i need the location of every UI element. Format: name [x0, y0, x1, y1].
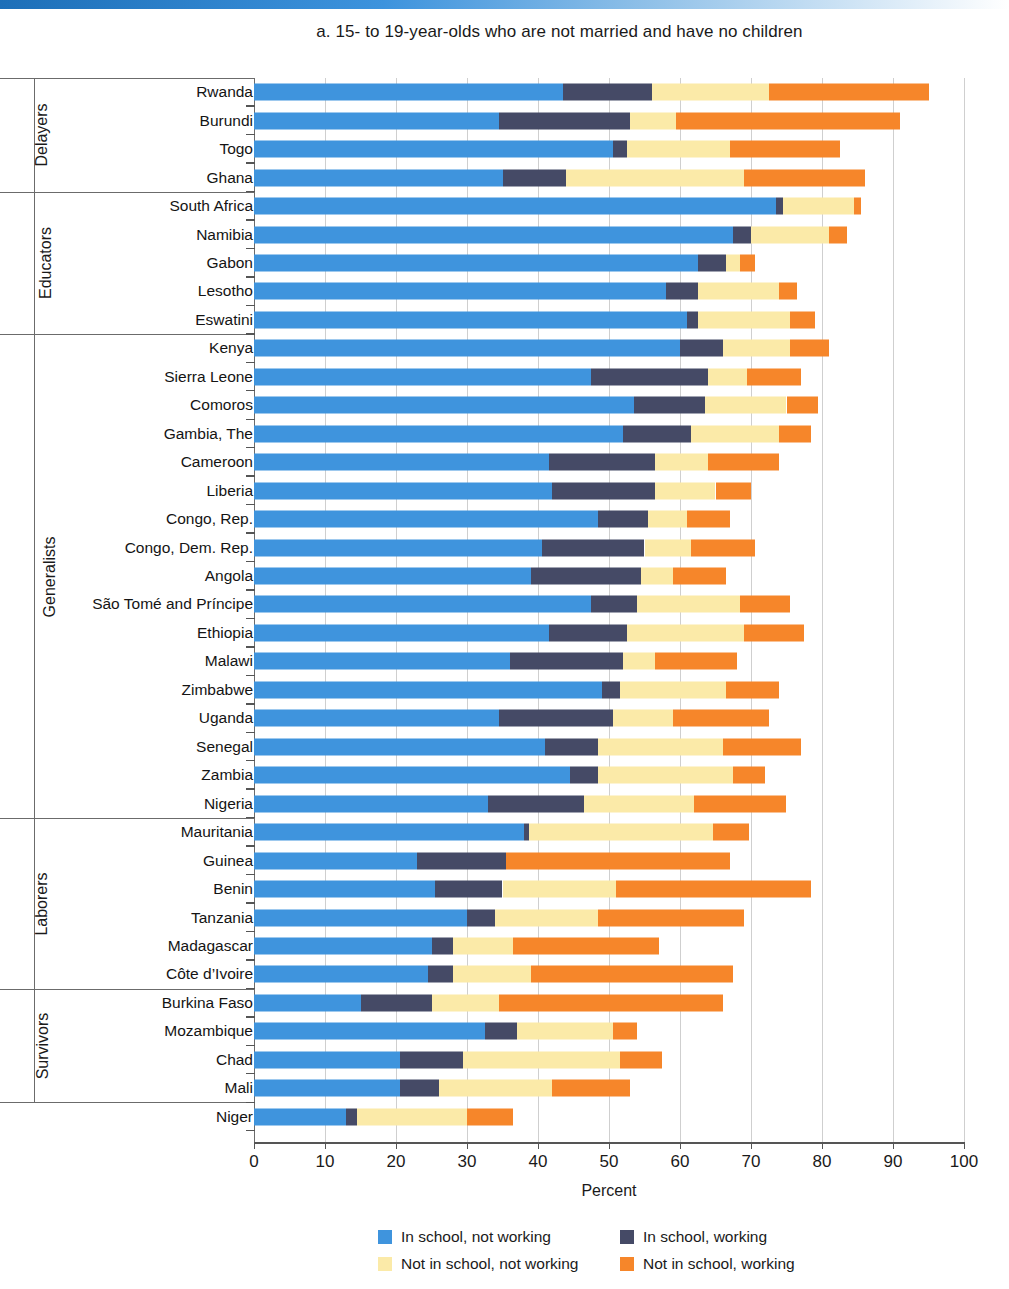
chart-row: Zambia — [0, 761, 1009, 789]
bar-segment-2 — [776, 198, 783, 215]
chart-row: Nigeria — [0, 790, 1009, 818]
chart-row: Côte d’Ivoire — [0, 960, 1009, 988]
bar-segment-1 — [254, 539, 542, 556]
bar-segment-4 — [716, 482, 752, 499]
country-label: Rwanda — [196, 83, 253, 101]
axis-tick-10 — [325, 1142, 326, 1149]
country-label: Comoros — [190, 396, 253, 414]
bar-segment-1 — [254, 994, 361, 1011]
stacked-bar — [254, 84, 964, 101]
axis-tick-label-90: 90 — [884, 1152, 903, 1172]
bar-segment-1 — [254, 226, 733, 243]
country-label: Namibia — [196, 226, 253, 244]
chart-row: Ghana — [0, 163, 1009, 191]
bar-segment-1 — [254, 397, 634, 414]
bar-segment-4 — [673, 710, 769, 727]
bar-segment-4 — [723, 738, 801, 755]
country-label: Chad — [216, 1051, 253, 1069]
bar-segment-2 — [400, 1051, 464, 1068]
bar-segment-2 — [698, 254, 726, 271]
stacked-bar — [254, 454, 964, 471]
bar-segment-4 — [713, 824, 749, 841]
axis-tick-label-10: 10 — [316, 1152, 335, 1172]
bar-segment-2 — [499, 112, 630, 129]
country-label: Liberia — [206, 482, 253, 500]
chart-row: Kenya — [0, 334, 1009, 362]
chart-row: Congo, Rep. — [0, 505, 1009, 533]
bar-segment-2 — [570, 767, 598, 784]
bar-segment-2 — [733, 226, 751, 243]
country-label: Senegal — [196, 738, 253, 756]
bar-segment-4 — [552, 1080, 630, 1097]
bar-segment-4 — [733, 767, 765, 784]
bar-segment-4 — [744, 169, 865, 186]
bar-segment-4 — [694, 795, 786, 812]
stacked-bar — [254, 340, 964, 357]
bar-segment-1 — [254, 767, 570, 784]
axis-tick-label-40: 40 — [529, 1152, 548, 1172]
bar-segment-4 — [829, 226, 847, 243]
stacked-bar — [254, 795, 964, 812]
axis-tick-50 — [609, 1142, 610, 1149]
stacked-bar — [254, 169, 964, 186]
bar-segment-1 — [254, 653, 510, 670]
bar-segment-2 — [361, 994, 432, 1011]
stacked-bar — [254, 283, 964, 300]
stacked-bar — [254, 624, 964, 641]
axis-tick-label-100: 100 — [950, 1152, 978, 1172]
bar-segment-3 — [495, 909, 598, 926]
chart-row: Eswatini — [0, 306, 1009, 334]
chart-row: Togo — [0, 135, 1009, 163]
country-label: São Tomé and Príncipe — [92, 595, 253, 613]
bar-segment-2 — [510, 653, 624, 670]
country-label: Cameroon — [181, 453, 253, 471]
bar-segment-1 — [254, 795, 488, 812]
chart-row: Lesotho — [0, 277, 1009, 305]
axis-tick-label-70: 70 — [742, 1152, 761, 1172]
bar-segment-4 — [691, 539, 755, 556]
bar-segment-2 — [467, 909, 495, 926]
bar-segment-3 — [517, 1023, 613, 1040]
bar-segment-2 — [552, 482, 655, 499]
chart-row: Niger — [0, 1103, 1009, 1131]
axis-tick-label-80: 80 — [813, 1152, 832, 1172]
country-label: Zambia — [201, 766, 253, 784]
country-label: Sierra Leone — [164, 368, 253, 386]
country-label: Madagascar — [168, 937, 253, 955]
bar-segment-2 — [432, 938, 453, 955]
bar-segment-3 — [627, 624, 744, 641]
chart-row: Comoros — [0, 391, 1009, 419]
bar-segment-1 — [254, 84, 563, 101]
bar-segment-3 — [439, 1080, 553, 1097]
stacked-bar — [254, 539, 964, 556]
country-label: Burkina Faso — [162, 994, 253, 1012]
bar-segment-4 — [687, 511, 730, 528]
bar-segment-2 — [531, 568, 641, 585]
country-label: Côte d’Ivoire — [166, 965, 253, 983]
bar-segment-1 — [254, 909, 467, 926]
country-label: Gabon — [206, 254, 253, 272]
x-axis-title: Percent — [254, 1182, 964, 1200]
bar-segment-4 — [620, 1051, 663, 1068]
stacked-bar — [254, 852, 964, 869]
bar-segment-2 — [542, 539, 645, 556]
stacked-bar — [254, 994, 964, 1011]
stacked-bar — [254, 568, 964, 585]
country-label: Kenya — [209, 339, 253, 357]
bar-segment-4 — [744, 624, 804, 641]
bar-segment-1 — [254, 596, 591, 613]
bar-segment-2 — [680, 340, 723, 357]
bar-segment-3 — [566, 169, 744, 186]
bar-segment-3 — [648, 511, 687, 528]
bar-segment-3 — [627, 141, 730, 158]
axis-tick-label-30: 30 — [458, 1152, 477, 1172]
chart-row: Gabon — [0, 249, 1009, 277]
bar-segment-3 — [613, 710, 673, 727]
chart-row: Liberia — [0, 476, 1009, 504]
bar-segment-1 — [254, 1108, 346, 1125]
bar-segment-2 — [687, 311, 698, 328]
bar-segment-4 — [467, 1108, 513, 1125]
legend-label: Not in school, working — [643, 1255, 795, 1273]
axis-tick-20 — [396, 1142, 397, 1149]
country-label: Uganda — [199, 709, 253, 727]
